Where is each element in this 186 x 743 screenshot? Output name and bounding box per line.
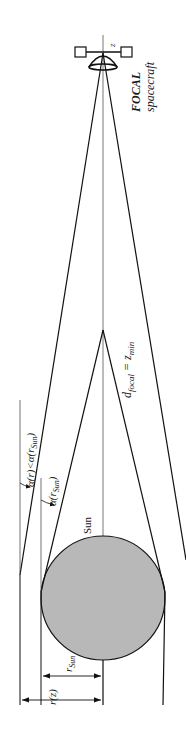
outer-ray-left: [20, 53, 103, 575]
r-z-label: r(z): [46, 689, 59, 705]
spacecraft-sub-label: spacecraft: [143, 61, 157, 112]
outer-mid: )<α(: [24, 451, 37, 474]
outer-angle-label: α(r)<α(rSun): [24, 432, 39, 487]
outer-ray-right: [103, 53, 186, 560]
focal-distance-label: dfocal = zmin: [120, 341, 136, 398]
z-axis-label: z: [107, 43, 117, 48]
sun-label: Sun: [81, 516, 93, 534]
lens-diagram: z FOCAL spacecraft dfocal = zmin Sun α(r…: [0, 0, 186, 743]
inner-end: ): [46, 476, 59, 481]
r-sun-label: rSun: [62, 656, 77, 672]
focal-eq: = z: [120, 355, 134, 374]
spacecraft-name-bold: FOCAL: [129, 72, 143, 113]
inner-angle-label: α(rSun): [46, 476, 61, 506]
outer-sub: Sun: [30, 436, 39, 448]
outer-end: ): [24, 432, 37, 437]
sun-disk: [41, 536, 165, 660]
focal-eq-sub: min: [126, 341, 136, 355]
focal-sub: focal: [126, 374, 136, 392]
inner-sub: Sun: [52, 480, 61, 492]
r-sun-sub: Sun: [68, 656, 77, 668]
spacecraft-label: FOCAL: [129, 72, 143, 113]
